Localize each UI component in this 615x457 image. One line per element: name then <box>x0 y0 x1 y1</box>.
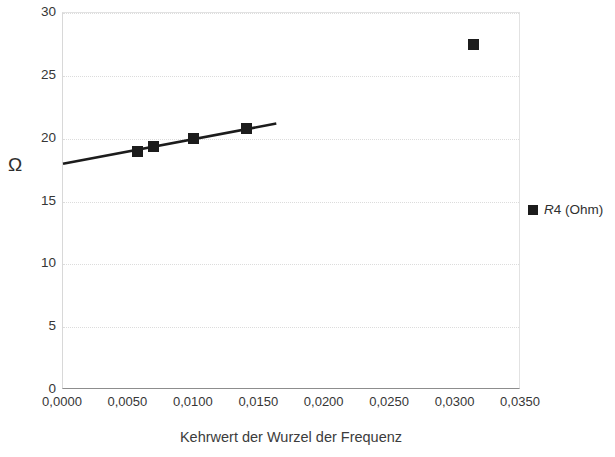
x-axis-tick-label: 0,0150 <box>223 394 293 409</box>
trendline <box>63 13 521 390</box>
y-axis-tick-label: 10 <box>16 256 56 270</box>
y-axis-title: Ω <box>8 154 22 176</box>
y-axis-tick-label: 20 <box>16 131 56 145</box>
y-axis-tick-label: 15 <box>16 194 56 208</box>
y-axis-ticks: 302520151050 <box>10 0 56 457</box>
data-point-marker <box>468 39 479 50</box>
plot-area <box>62 12 520 389</box>
x-axis-tick-label: 0,0200 <box>289 394 359 409</box>
x-axis-tick-label: 0,0300 <box>420 394 490 409</box>
legend: R4 (Ohm) <box>528 202 603 217</box>
chart-container: 302520151050 Ω 0,00000,00500,01000,01500… <box>0 0 615 457</box>
data-point-marker <box>188 133 199 144</box>
x-axis-tick-label: 0,0250 <box>354 394 424 409</box>
y-axis-tick-label: 25 <box>16 68 56 82</box>
legend-label-r4: R4 (Ohm) <box>544 202 603 217</box>
x-axis-ticks: 0,00000,00500,01000,01500,02000,02500,03… <box>0 394 615 414</box>
x-axis-tick-label: 0,0000 <box>27 394 97 409</box>
data-point-marker <box>241 123 252 134</box>
x-axis-tick-label: 0,0350 <box>485 394 555 409</box>
x-axis-tick-label: 0,0100 <box>158 394 228 409</box>
data-point-marker <box>148 141 159 152</box>
x-axis-title: Kehrwert der Wurzel der Frequenz <box>62 428 520 446</box>
x-axis-tick-label: 0,0050 <box>92 394 162 409</box>
y-axis-tick-label: 5 <box>16 319 56 333</box>
legend-swatch-r4 <box>528 205 538 215</box>
data-point-marker <box>132 146 143 157</box>
y-axis-tick-label: 30 <box>16 5 56 19</box>
